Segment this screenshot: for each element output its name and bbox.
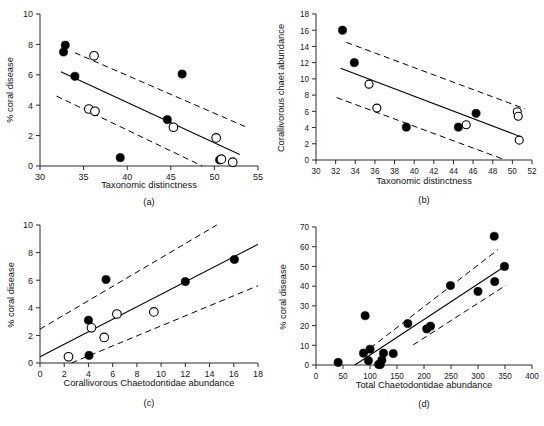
panel-c: 0246810024681012141618% coral diseaseCor… [0, 213, 272, 426]
x-tick-label-b-3: 36 [370, 167, 380, 176]
x-tick-label-b-1: 32 [331, 167, 341, 176]
y-tick-label-b-9: 18 [300, 10, 310, 19]
y-tick-label-d-3: 30 [300, 302, 310, 311]
data-point-c-open-0 [64, 352, 73, 361]
y-tick-label-a-3: 6 [28, 70, 33, 80]
data-point-b-open-4 [514, 112, 522, 120]
data-point-d-filled-4 [364, 357, 372, 365]
data-point-a-filled-2 [71, 72, 79, 80]
x-axis-title-d: Total Chaetodontidae abundance [356, 380, 492, 390]
data-point-d-filled-15 [490, 232, 498, 240]
y-tick-label-b-4: 8 [304, 91, 309, 100]
y-tick-label-d-5: 50 [300, 263, 310, 272]
panel-caption-a: (a) [143, 197, 154, 207]
y-tick-label-b-8: 16 [300, 27, 310, 36]
panel-d: 010203040506070050100150200250300350400%… [272, 213, 544, 426]
ci-lower-d [413, 285, 506, 345]
data-point-b-open-1 [373, 104, 381, 112]
y-tick-label-a-1: 2 [28, 131, 33, 141]
x-tick-label-a-0: 30 [35, 172, 45, 182]
data-point-c-filled-4 [230, 255, 238, 263]
data-point-b-filled-1 [350, 59, 358, 67]
ci-lower-a [57, 96, 203, 166]
y-tick-label-c-1: 2 [28, 331, 33, 341]
x-tick-label-b-2: 34 [351, 167, 361, 176]
x-tick-label-c-0: 0 [37, 369, 42, 379]
y-tick-label-d-6: 60 [300, 243, 310, 252]
x-axis-title-a: Taxonomic distinctness [101, 180, 197, 190]
x-tick-label-a-1: 35 [79, 172, 89, 182]
data-point-c-filled-2 [102, 275, 110, 283]
x-tick-label-b-7: 44 [449, 167, 459, 176]
x-tick-label-d-1: 50 [338, 372, 348, 381]
data-point-a-filled-4 [163, 116, 171, 124]
data-point-b-open-5 [515, 136, 523, 144]
y-tick-label-d-7: 70 [300, 223, 310, 232]
data-point-b-open-0 [365, 80, 373, 88]
x-tick-label-b-11: 52 [527, 167, 537, 176]
y-tick-label-b-2: 4 [304, 124, 309, 133]
data-point-a-open-5 [217, 155, 226, 164]
x-tick-label-c-9: 18 [253, 369, 263, 379]
ci-lower-c [71, 286, 258, 363]
y-axis-title-a: % coral disease [5, 57, 15, 123]
data-point-c-open-3 [113, 310, 122, 319]
x-tick-label-d-8: 400 [525, 372, 539, 381]
data-point-d-filled-10 [404, 320, 412, 328]
data-point-a-open-0 [90, 52, 99, 61]
data-point-c-filled-3 [181, 277, 189, 285]
fit-line-b [341, 68, 522, 137]
panel-caption-b: (b) [418, 195, 429, 205]
y-tick-label-d-2: 20 [300, 322, 310, 331]
y-tick-label-c-0: 0 [28, 358, 33, 368]
scatter-figure-grid: 0246810303540455055% coral diseaseTaxono… [0, 0, 544, 426]
data-point-d-filled-16 [491, 278, 499, 286]
ci-upper-b [346, 42, 525, 109]
x-axis-title-c: Corallivorous Chaetodontidae abundance [63, 378, 234, 388]
fit-line-d [355, 265, 506, 365]
x-tick-label-b-9: 48 [488, 167, 498, 176]
y-tick-label-c-3: 6 [28, 276, 33, 286]
x-tick-label-b-0: 30 [311, 167, 321, 176]
data-point-d-filled-3 [366, 345, 374, 353]
data-point-a-filled-3 [116, 154, 124, 162]
y-axis-title-d: % coral disease [278, 264, 288, 330]
data-point-a-filled-5 [178, 70, 186, 78]
y-tick-label-a-5: 10 [23, 9, 33, 19]
data-point-a-open-3 [169, 123, 178, 132]
data-point-d-filled-0 [334, 358, 342, 366]
panel-b: 024681012141618303234363840424446485052C… [272, 0, 544, 213]
axis-frame-c [40, 225, 258, 363]
data-point-a-open-2 [91, 107, 100, 116]
data-point-c-open-4 [150, 308, 159, 317]
data-point-d-filled-13 [446, 281, 454, 289]
y-tick-label-d-0: 0 [304, 361, 309, 370]
y-tick-label-b-5: 10 [300, 75, 310, 84]
x-axis-title-b: Taxonomic distinctness [376, 176, 472, 186]
data-point-d-filled-2 [361, 312, 369, 320]
x-tick-label-b-8: 46 [469, 167, 479, 176]
x-tick-label-b-10: 50 [508, 167, 518, 176]
axis-frame-d [316, 227, 532, 365]
axis-frame-a [40, 14, 258, 166]
chart-d: 010203040506070050100150200250300350400%… [272, 213, 544, 426]
ci-upper-d [362, 250, 498, 354]
data-point-b-filled-2 [402, 123, 410, 131]
y-tick-label-d-1: 10 [300, 342, 310, 351]
chart-b: 024681012141618303234363840424446485052C… [272, 0, 544, 213]
data-point-b-filled-4 [472, 109, 480, 117]
y-tick-label-b-3: 6 [304, 108, 309, 117]
y-tick-label-b-7: 14 [300, 43, 310, 52]
y-tick-label-b-1: 2 [304, 140, 309, 149]
chart-a: 0246810303540455055% coral diseaseTaxono… [0, 0, 272, 213]
y-tick-label-c-5: 10 [23, 220, 33, 230]
y-axis-title-b: Corallivorous chaet abundance [276, 24, 286, 152]
ci-lower-b [337, 98, 506, 160]
ci-upper-c [40, 225, 217, 329]
data-point-d-filled-14 [474, 287, 482, 295]
x-tick-label-d-7: 350 [498, 372, 512, 381]
data-point-d-filled-17 [500, 262, 508, 270]
panel-a: 0246810303540455055% coral diseaseTaxono… [0, 0, 272, 213]
data-point-b-filled-0 [338, 26, 346, 34]
y-tick-label-a-0: 0 [28, 161, 33, 171]
